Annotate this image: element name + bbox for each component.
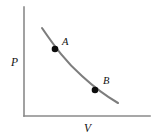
- y-axis-label: P: [10, 56, 18, 68]
- pv-diagram-figure: A B P V: [0, 0, 156, 138]
- data-point-a: [52, 46, 59, 53]
- x-axis-label: V: [84, 122, 93, 134]
- pv-curve: [42, 28, 118, 103]
- data-point-b-label: B: [103, 75, 110, 86]
- pv-diagram-canvas: A B P V: [0, 0, 156, 138]
- data-point-b: [92, 87, 99, 94]
- data-point-a-label: A: [61, 36, 69, 47]
